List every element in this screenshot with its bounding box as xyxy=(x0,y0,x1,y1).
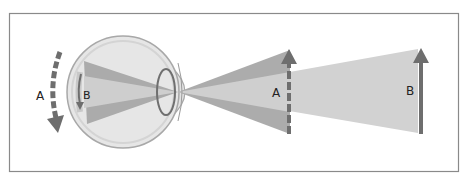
eye-diagram: A B A B xyxy=(0,0,469,180)
label-retina-arc: B xyxy=(83,89,91,102)
diagram-canvas: A B A B xyxy=(0,0,469,180)
label-near-object: A xyxy=(272,86,281,100)
label-outer-arc: A xyxy=(36,89,45,103)
label-far-object: B xyxy=(406,84,414,98)
